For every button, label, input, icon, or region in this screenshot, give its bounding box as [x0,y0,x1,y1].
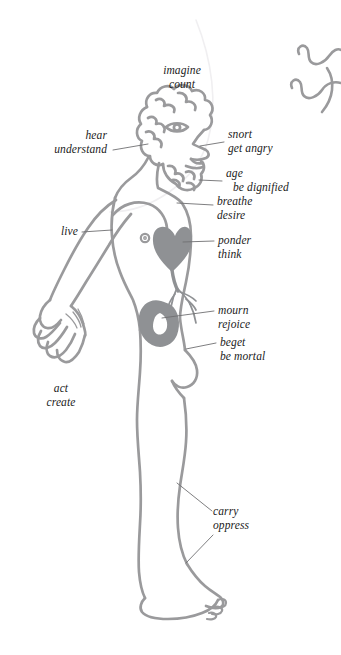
leader-nose [200,142,224,146]
label-line-1: mourn [218,304,249,316]
leader-carry [177,483,212,511]
label-beget-be-mortal: beget be mortal [220,336,265,363]
kidney-shape [139,300,179,347]
label-line-1: snort [228,128,252,140]
label-breathe-desire: breathe desire [217,195,252,222]
label-line-2: get angry [228,142,273,156]
label-line-1: carry [213,505,238,517]
label-mourn-rejoice: mourn rejoice [218,304,250,331]
organ-shapes [139,227,196,347]
label-line-2: be mortal [220,350,265,364]
label-line-2: be dignified [226,181,289,195]
label-line-2: desire [217,209,252,223]
label-line-1: act [54,382,68,394]
label-line-1: hear [86,129,107,141]
label-act-create: act create [33,382,89,409]
label-age-be-dignified: age be dignified [226,167,289,194]
label-line-1: ponder [218,234,251,246]
label-line-1: imagine [163,64,201,76]
label-line-2: think [218,248,251,262]
label-line-2: rejoice [218,318,250,332]
label-ponder-think: ponder think [218,234,251,261]
label-line-1: live [61,225,78,237]
anatomical-figure-illustration [0,0,341,655]
label-line-2: create [33,396,89,410]
label-line-1: breathe [217,195,252,207]
label-line-1: age [226,167,243,179]
label-snort-get-angry: snort get angry [228,128,273,155]
label-live: live [26,225,78,239]
label-imagine-count: imagine count [140,64,224,91]
body-outline [34,85,226,619]
label-line-2: oppress [213,519,249,533]
label-hear-understand: hear understand [21,129,107,156]
label-carry-oppress: carry oppress [213,505,249,532]
leader-oppress [186,535,213,563]
leader-loins [186,343,216,349]
label-line-2: understand [21,143,107,157]
label-line-2: count [140,78,224,92]
diagram-page: imagine count hear understand snort get … [0,0,341,655]
label-line-1: beget [220,336,245,348]
wavy-line-decorations [291,46,341,112]
